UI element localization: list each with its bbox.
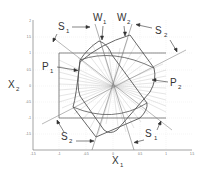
label-s1-top: S	[58, 21, 65, 32]
diagram-canvas: 2 1.5 1 0.5 0 -0.5 -1 -1.5 -1.5 -1 -0.5 …	[0, 0, 204, 174]
label-p1: P	[42, 61, 49, 72]
arrow-icon	[152, 79, 156, 82]
label-p2: P	[170, 77, 177, 88]
arrow-icon	[86, 26, 90, 29]
y-tick: 1.5	[27, 35, 32, 39]
arrow-icon	[101, 36, 104, 40]
y-tick: -1.5	[26, 132, 32, 136]
arrow-icon	[174, 48, 177, 52]
label-s2-top: S	[155, 25, 162, 36]
x-axis-label: X	[112, 155, 119, 166]
label-s1-bottom: S	[145, 128, 152, 139]
arrow-icon	[57, 67, 76, 70]
y-tick: 2	[29, 19, 31, 23]
y-axis-label-sub: 2	[16, 86, 20, 92]
labels: S 1 W 1 W 2 S 2 P 1 P 2 S 2 S 1 X 1 X 2	[8, 12, 182, 168]
y-tick: 0.5	[27, 68, 32, 72]
arrow-icon	[57, 120, 60, 124]
x-tick: -1.5	[30, 152, 36, 156]
x-tick: -0.5	[83, 152, 89, 156]
arrow-icon	[136, 24, 140, 27]
label-w1-sub: 1	[103, 19, 107, 25]
x-tick: 1.5	[190, 152, 195, 156]
y-tick: 0	[29, 84, 31, 88]
label-s1-bottom-sub: 1	[154, 135, 158, 141]
y-tick: -1	[28, 116, 31, 120]
label-w1: W	[93, 12, 103, 23]
label-s2-bottom-sub: 2	[69, 138, 73, 144]
x-tick: 0.5	[138, 152, 143, 156]
y-axis-label: X	[8, 79, 15, 90]
label-p1-sub: 1	[50, 68, 54, 74]
x-tick: 1	[165, 152, 167, 156]
label-s2-bottom: S	[61, 131, 68, 142]
x-axis-label-sub: 1	[120, 162, 124, 168]
s2-line	[42, 50, 186, 124]
label-w2: W	[117, 12, 127, 23]
arrow-icon	[90, 140, 94, 143]
label-w2-sub: 2	[127, 19, 131, 25]
arrow-icon	[53, 38, 56, 42]
y-tick: 1	[29, 51, 31, 55]
y-ticks: 2 1.5 1 0.5 0 -0.5 -1 -1.5	[26, 19, 32, 136]
y-tick: -0.5	[26, 100, 32, 104]
x-tick: -1	[58, 152, 61, 156]
arrow-icon	[158, 121, 161, 125]
label-s1-top-sub: 1	[66, 28, 70, 34]
annotation-arrows	[53, 24, 177, 144]
arrow-icon	[124, 32, 127, 36]
label-p2-sub: 2	[178, 84, 182, 90]
arrow-icon	[134, 141, 138, 144]
